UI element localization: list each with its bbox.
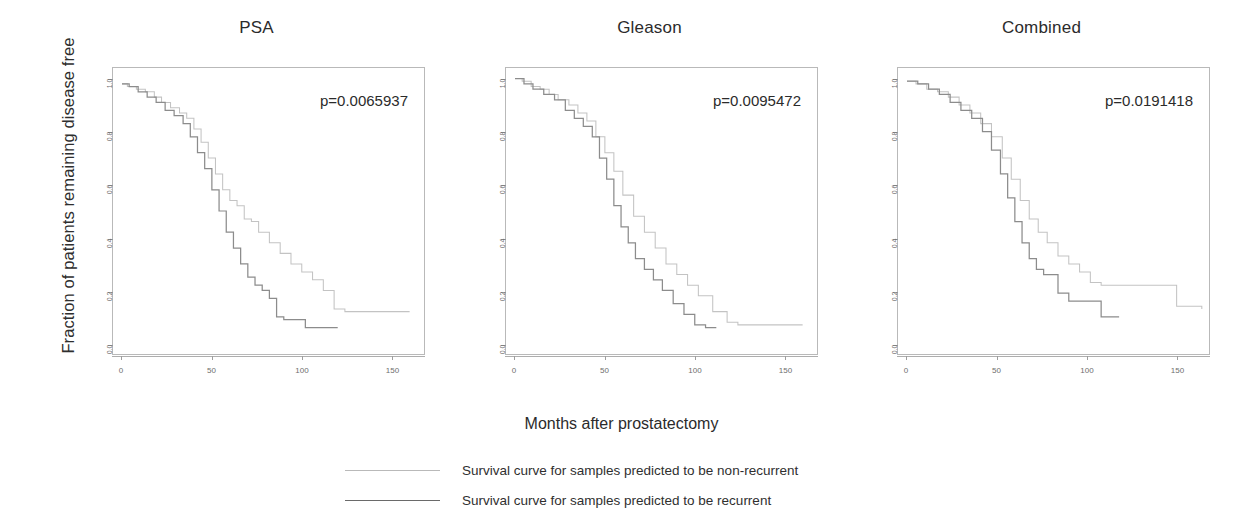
x-tick-mark [1177,356,1178,360]
curve-recurrent [122,84,338,328]
legend-item-recurrent: Survival curve for samples predicted to … [0,485,1243,515]
y-tick-label: 1.0 [499,78,506,94]
curve-non-recurrent [122,84,410,312]
y-tick-label: 0.8 [106,132,113,148]
legend-label-recurrent: Survival curve for samples predicted to … [462,493,771,508]
x-tick-label: 0 [904,366,908,375]
x-tick-mark [1087,356,1088,360]
y-tick-label: 0.6 [499,185,506,201]
curve-recurrent [515,79,716,328]
panel-title: Combined [873,18,1210,38]
panel-gleason: Gleasonp=0.00954720.00.20.40.60.81.00501… [481,0,818,400]
plot-area: p=0.00954720.00.20.40.60.81.0 [505,67,818,355]
x-tick-mark [605,356,606,360]
y-tick-label: 0.8 [891,132,898,148]
x-tick-mark [212,356,213,360]
legend-item-non-recurrent: Survival curve for samples predicted to … [0,455,1243,485]
x-tick-mark [695,356,696,360]
x-tick-label: 50 [600,366,609,375]
curve-recurrent [907,81,1119,317]
x-tick-mark [514,356,515,360]
legend-line-non-recurrent [345,470,440,471]
x-tick-label: 50 [207,366,216,375]
panel-title: Gleason [481,18,818,38]
plot-area: p=0.00659370.00.20.40.60.81.0 [112,67,425,355]
legend: Survival curve for samples predicted to … [0,455,1243,515]
x-axis-line [505,356,818,357]
y-tick-label: 0.4 [499,238,506,254]
survival-curves [898,68,1209,354]
legend-label-non-recurrent: Survival curve for samples predicted to … [462,463,798,478]
x-tick-mark [121,356,122,360]
y-tick-label: 0.6 [891,185,898,201]
survival-figure: Fraction of patients remaining disease f… [0,0,1243,525]
y-tick-label: 0.2 [891,292,898,308]
x-tick-label: 150 [386,366,399,375]
plot-area: p=0.01914180.00.20.40.60.81.0 [897,67,1210,355]
y-axis-label: Fraction of patients remaining disease f… [59,6,78,386]
y-tick-label: 0.2 [499,292,506,308]
y-tick-label: 1.0 [106,78,113,94]
x-axis-label: Months after prostatectomy [0,415,1243,433]
x-tick-label: 100 [688,366,701,375]
panel-psa: PSAp=0.00659370.00.20.40.60.81.005010015… [88,0,425,400]
y-tick-label: 0.4 [106,238,113,254]
x-tick-label: 100 [295,366,308,375]
x-axis: 050100150 [505,356,818,380]
x-tick-label: 0 [512,366,516,375]
x-tick-label: 100 [1080,366,1093,375]
survival-curves [506,68,817,354]
x-axis: 050100150 [897,356,1210,380]
panel-title: PSA [88,18,425,38]
survival-curves [113,68,424,354]
x-tick-mark [392,356,393,360]
y-tick-label: 1.0 [891,78,898,94]
x-axis: 050100150 [112,356,425,380]
x-tick-label: 50 [992,366,1001,375]
x-tick-mark [785,356,786,360]
panel-combined: Combinedp=0.01914180.00.20.40.60.81.0050… [873,0,1210,400]
x-tick-label: 150 [1171,366,1184,375]
x-tick-label: 0 [119,366,123,375]
x-axis-line [897,356,1210,357]
x-tick-mark [906,356,907,360]
x-tick-label: 150 [779,366,792,375]
curve-non-recurrent [515,79,803,325]
y-tick-label: 0.4 [891,238,898,254]
y-tick-label: 0.2 [106,292,113,308]
x-tick-mark [302,356,303,360]
x-axis-line [112,356,425,357]
y-tick-label: 0.8 [499,132,506,148]
x-tick-mark [997,356,998,360]
y-tick-label: 0.6 [106,185,113,201]
legend-line-recurrent [345,500,440,501]
